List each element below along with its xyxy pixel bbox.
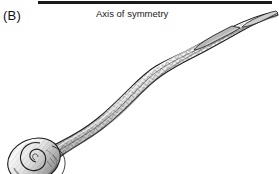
specimen-distal-tip [242,11,278,27]
figure-panel-b: (B) Axis of symmetry [0,0,279,174]
specimen-overlap-segment [194,26,240,50]
specimen-coiled-knob [1,130,67,174]
specimen-illustration [0,0,279,174]
